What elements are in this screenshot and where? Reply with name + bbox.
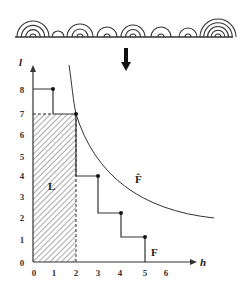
marker-dot [74, 112, 78, 116]
arch [200, 19, 236, 37]
x-tick: 2 [74, 268, 79, 278]
arches-row [17, 19, 236, 37]
x-tick: 4 [118, 268, 123, 278]
y-tick: 5 [20, 152, 25, 162]
arch-ring [179, 28, 197, 37]
arch-ring [121, 25, 145, 37]
arch [179, 28, 197, 37]
y-axis-label: l [19, 56, 23, 68]
region-L-label: L [48, 180, 55, 192]
figure: l h 0 1 2 3 4 5 6 7 8 0 1 2 3 4 5 6 L F̂… [0, 0, 238, 290]
curve-F-hat [69, 65, 214, 218]
arch-ring [72, 29, 88, 37]
arch [52, 31, 64, 37]
y-tick: 8 [20, 85, 25, 95]
x-tick: 1 [52, 268, 57, 278]
arch-ring [208, 27, 229, 37]
marker-dot [143, 235, 147, 239]
arch [97, 27, 117, 37]
arch-ring [26, 30, 41, 37]
arch [151, 27, 171, 37]
marker-dot [51, 87, 55, 91]
arch-ring [151, 27, 171, 37]
y-tick: 6 [20, 130, 25, 140]
y-tick: 0 [20, 258, 25, 268]
y-tick-labels: 0 1 2 3 4 5 6 7 8 [20, 85, 25, 268]
arch [67, 24, 93, 37]
y-tick: 7 [20, 109, 25, 119]
marker-dot [119, 211, 123, 215]
arch-ring [21, 25, 44, 37]
x-axis-label: h [200, 256, 206, 268]
curve-F-hat-label: F̂ [135, 173, 142, 185]
arch-ring [67, 24, 93, 37]
y-tick: 3 [20, 192, 25, 202]
arch-ring [52, 31, 64, 37]
arch-ring [126, 30, 141, 38]
x-tick-labels: 0 1 2 3 4 5 6 [32, 268, 169, 278]
x-tick: 5 [143, 268, 148, 278]
marker-dot [96, 174, 100, 178]
arch [17, 21, 49, 37]
y-tick: 1 [20, 235, 25, 245]
y-tick: 4 [20, 171, 25, 181]
x-tick: 6 [164, 268, 169, 278]
x-tick: 3 [96, 268, 101, 278]
step-F-label: F [151, 246, 158, 258]
arch-ring [97, 27, 117, 37]
y-tick: 2 [20, 213, 25, 223]
x-tick: 0 [32, 268, 37, 278]
arch [121, 25, 145, 37]
down-arrow-icon [121, 48, 131, 71]
